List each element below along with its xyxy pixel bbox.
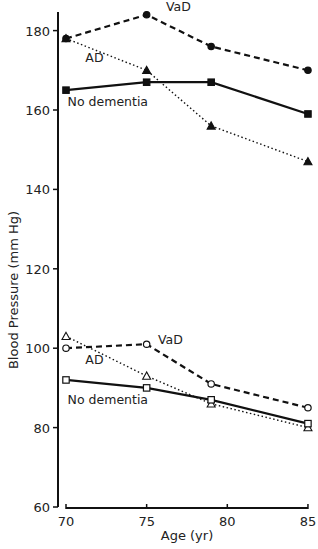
y-axis: 6080100120140160180 bbox=[25, 12, 58, 515]
x-tick-label: 70 bbox=[58, 514, 75, 529]
triangle-marker bbox=[143, 66, 151, 73]
square-marker bbox=[143, 385, 149, 391]
series-lines bbox=[62, 12, 312, 431]
blood-pressure-chart: 6080100120140160180 70758085 VaDADNo dem… bbox=[0, 0, 318, 549]
circle-marker bbox=[305, 405, 311, 411]
square-marker bbox=[305, 420, 311, 426]
square-marker bbox=[63, 377, 69, 383]
x-axis-label: Age (yr) bbox=[161, 528, 213, 543]
y-axis-label: Blood Pressure (mm Hg) bbox=[6, 211, 21, 369]
y-tick-label: 140 bbox=[25, 182, 50, 197]
y-tick-label: 60 bbox=[33, 500, 50, 515]
circle-marker bbox=[305, 67, 311, 73]
square-marker bbox=[208, 79, 214, 85]
series-label: No dementia bbox=[68, 392, 148, 407]
y-tick-label: 180 bbox=[25, 24, 50, 39]
y-tick-label: 100 bbox=[25, 341, 50, 356]
x-tick-label: 75 bbox=[138, 514, 155, 529]
x-tick-label: 80 bbox=[219, 514, 236, 529]
series-label: VaD bbox=[158, 332, 183, 347]
circle-marker bbox=[63, 345, 69, 351]
series-label: VaD bbox=[166, 0, 191, 14]
square-marker bbox=[208, 397, 214, 403]
series-label: AD bbox=[85, 50, 103, 65]
x-tick-label: 85 bbox=[300, 514, 317, 529]
series-label: No dementia bbox=[68, 94, 148, 109]
y-tick-label: 120 bbox=[25, 262, 50, 277]
series-label: AD bbox=[85, 352, 103, 367]
square-marker bbox=[63, 87, 69, 93]
x-axis: 70758085 bbox=[58, 504, 316, 529]
circle-marker bbox=[208, 381, 214, 387]
y-tick-label: 80 bbox=[33, 421, 50, 436]
circle-marker bbox=[143, 12, 149, 18]
circle-marker bbox=[208, 43, 214, 49]
y-tick-label: 160 bbox=[25, 103, 50, 118]
square-marker bbox=[143, 79, 149, 85]
triangle-marker bbox=[143, 372, 151, 379]
circle-marker bbox=[143, 341, 149, 347]
square-marker bbox=[305, 111, 311, 117]
triangle-marker bbox=[62, 332, 70, 339]
triangle-marker bbox=[207, 122, 215, 129]
